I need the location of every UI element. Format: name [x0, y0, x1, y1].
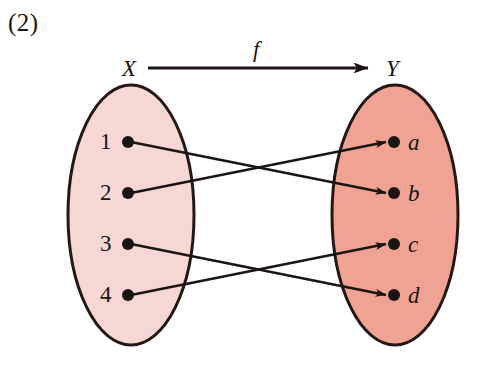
domain-label-1: 1 — [100, 130, 112, 153]
domain-dot-4 — [122, 289, 134, 301]
codomain-label-c: c — [408, 233, 418, 256]
codomain-label-a: a — [408, 131, 420, 154]
function-diagram-figure: Y --> (2) X Y f 1 2 3 4 a b c d — [0, 0, 485, 370]
codomain-label-b: b — [408, 182, 420, 205]
domain-dot-1 — [122, 136, 134, 148]
domain-set-ellipse — [68, 85, 194, 345]
codomain-label-d: d — [408, 284, 420, 307]
codomain-set-ellipse — [332, 85, 458, 345]
codomain-dot-a — [388, 136, 400, 148]
domain-label-2: 2 — [100, 181, 112, 204]
domain-label-3: 3 — [100, 232, 112, 255]
codomain-set-label: Y — [386, 57, 399, 80]
figure-item-number: (2) — [8, 10, 39, 35]
codomain-dot-d — [388, 289, 400, 301]
domain-dot-2 — [122, 187, 134, 199]
codomain-dot-b — [388, 187, 400, 199]
domain-set-label: X — [122, 57, 136, 80]
domain-dot-3 — [122, 238, 134, 250]
codomain-dot-c — [388, 238, 400, 250]
map-function-label: f — [253, 38, 259, 61]
domain-label-4: 4 — [100, 283, 112, 306]
